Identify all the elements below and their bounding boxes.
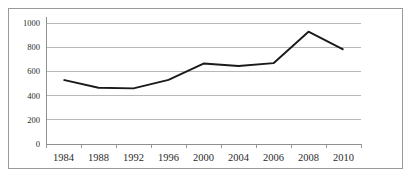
y-axis-tick-label: 0 <box>36 139 40 149</box>
x-axis-tick-label: 2004 <box>228 152 250 163</box>
y-axis-tick-label: 600 <box>27 66 40 76</box>
x-axis-tick-label: 1992 <box>123 152 144 163</box>
line-chart: 1000800600400200019841988199219962000200… <box>9 9 404 170</box>
x-axis-tick-label: 2010 <box>333 152 354 163</box>
y-axis-tick-label: 1000 <box>23 18 40 28</box>
y-axis-tick-label: 200 <box>27 115 40 125</box>
x-axis-tick-label: 1988 <box>88 152 109 163</box>
x-axis-tick-label: 2008 <box>298 152 319 163</box>
x-axis-tick-label: 1984 <box>53 152 75 163</box>
x-axis-tick-label: 1996 <box>158 152 179 163</box>
y-axis-tick-label: 400 <box>27 91 40 101</box>
chart-plot-surface: 1000800600400200019841988199219962000200… <box>9 9 404 170</box>
x-axis-tick-label: 2006 <box>263 152 284 163</box>
data-series-line <box>64 32 344 89</box>
y-axis-tick-label: 800 <box>27 42 40 52</box>
chart-figure-frame: 1000800600400200019841988199219962000200… <box>8 8 403 169</box>
x-axis-tick-label: 2000 <box>193 152 214 163</box>
